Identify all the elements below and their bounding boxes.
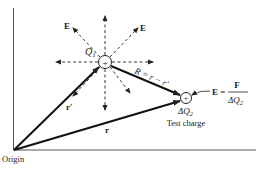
test-charge-q2: + (181, 93, 192, 104)
origin-label: Origin (2, 154, 25, 164)
svg-text:F: F (234, 80, 240, 90)
svg-text:E =: E = (212, 87, 225, 97)
field-label-e-left: E (64, 21, 70, 31)
equation-leader (192, 91, 210, 95)
svg-text:+: + (102, 58, 107, 68)
svg-text:+: + (184, 94, 189, 103)
field-equation: E = F ΔQ2 (212, 80, 248, 106)
field-diagram: + + Q1 E E r′ r R = r − r′ E = F ΔQ2 ΔQ2… (0, 0, 266, 170)
test-charge-caption: Test charge (167, 118, 206, 128)
svg-text:ΔQ2: ΔQ2 (227, 95, 244, 106)
field-label-e-right: E (140, 23, 146, 33)
source-charge-q1: + (99, 56, 112, 69)
test-charge-symbol: ΔQ2 (177, 106, 194, 117)
r-prime-label: r′ (66, 102, 73, 112)
q1-label: Q1 (85, 46, 96, 59)
r-label: r (105, 125, 109, 135)
